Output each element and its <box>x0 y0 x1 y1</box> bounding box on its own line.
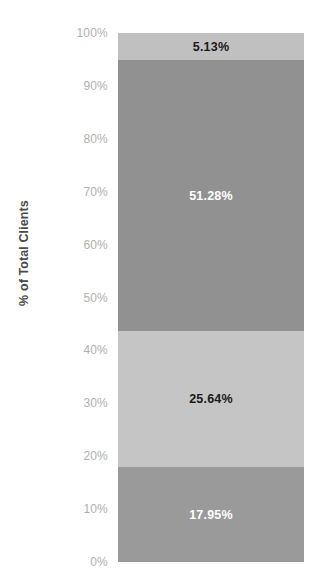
y-axis-tick-0: 0% <box>0 556 108 568</box>
stacked-bar-chart: % of Total Clients 100%90%80%70%60%50%40… <box>0 0 322 583</box>
bar-segment-label: 25.64% <box>189 392 233 406</box>
bar-segment-label: 5.13% <box>193 40 229 54</box>
y-axis-tick-20: 20% <box>0 450 108 462</box>
bar-segment[interactable]: 5.13% <box>118 33 304 60</box>
bar-segment[interactable]: 25.64% <box>118 331 304 467</box>
y-axis-tick-50: 50% <box>0 292 108 304</box>
y-axis-tick-40: 40% <box>0 344 108 356</box>
bar-segment[interactable]: 17.95% <box>118 467 304 562</box>
y-axis-tick-80: 80% <box>0 133 108 145</box>
plot-area: 5.13%51.28%25.64%17.95% <box>118 33 304 562</box>
bar-segment-label: 51.28% <box>189 189 233 203</box>
stacked-bar: 5.13%51.28%25.64%17.95% <box>118 33 304 562</box>
y-axis-tick-labels: 100%90%80%70%60%50%40%30%20%10%0% <box>0 0 108 583</box>
y-axis-tick-90: 90% <box>0 80 108 92</box>
y-axis-tick-60: 60% <box>0 239 108 251</box>
y-axis-tick-100: 100% <box>0 27 108 39</box>
bar-segment[interactable]: 51.28% <box>118 60 304 331</box>
y-axis-tick-70: 70% <box>0 186 108 198</box>
y-axis-tick-10: 10% <box>0 503 108 515</box>
bar-segment-label: 17.95% <box>189 508 233 522</box>
y-axis-tick-30: 30% <box>0 397 108 409</box>
